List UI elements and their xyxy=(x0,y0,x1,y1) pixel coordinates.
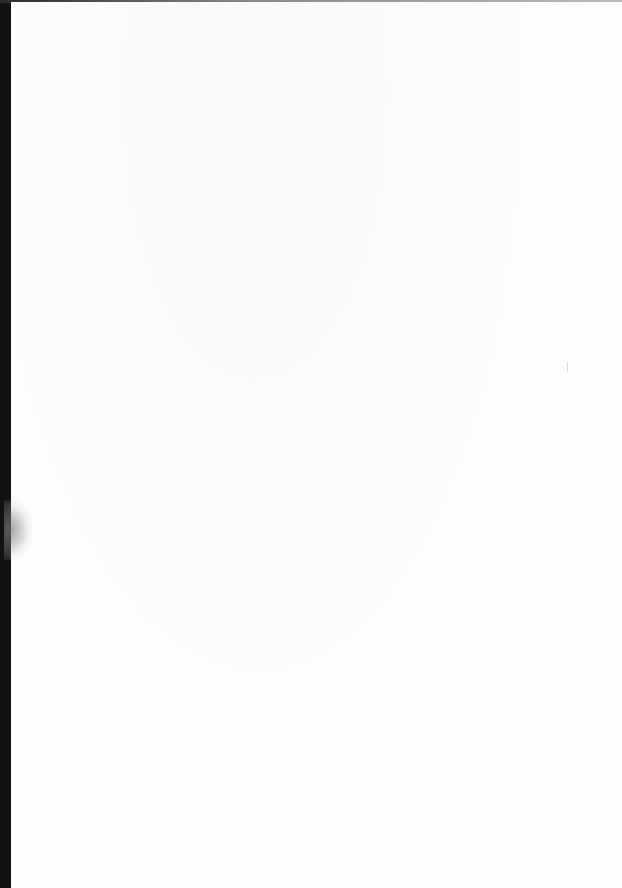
scan-speck xyxy=(567,362,568,372)
blank-page xyxy=(11,2,622,888)
binding-edge xyxy=(0,0,11,888)
scan-shadow-mark xyxy=(4,500,32,560)
